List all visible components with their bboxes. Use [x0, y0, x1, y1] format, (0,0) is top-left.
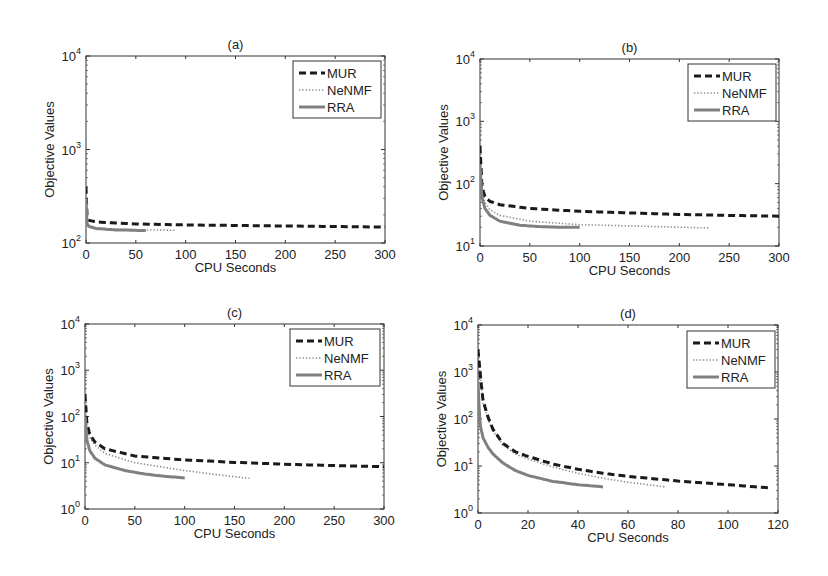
- x-tick-label: 50: [523, 250, 537, 265]
- y-tick-label: 103: [61, 360, 80, 378]
- x-tick-label: 80: [671, 517, 685, 532]
- x-tick-label: 100: [717, 517, 739, 532]
- legend-label-nenmf: NeNMF: [722, 86, 767, 101]
- legend-label-nenmf: NeNMF: [327, 83, 372, 98]
- series-line-rra: [86, 198, 146, 230]
- x-axis-label: CPU Seconds: [589, 263, 671, 278]
- legend: MURNeNMFRRA: [687, 331, 775, 388]
- y-tick-label: 101: [456, 236, 475, 254]
- series-line-mur: [86, 187, 385, 227]
- x-tick-label: 100: [175, 247, 197, 262]
- y-tick-label: 103: [456, 111, 475, 129]
- chart-panel-b: 050100150200250300101102103104(b)CPU Sec…: [436, 40, 790, 278]
- x-tick-label: 120: [767, 517, 789, 532]
- x-tick-label: 0: [81, 513, 88, 528]
- legend: MURNeNMFRRA: [293, 61, 381, 118]
- y-tick-label: 102: [61, 407, 80, 425]
- x-tick-label: 50: [129, 247, 143, 262]
- x-tick-label: 50: [128, 513, 142, 528]
- chart-panel-a: 050100150200250300102103104(a)CPU Second…: [42, 37, 396, 275]
- y-axis-label: Objective Values: [41, 368, 56, 465]
- x-tick-label: 250: [323, 513, 345, 528]
- legend-label-mur: MUR: [721, 336, 751, 351]
- y-axis-label: Objective Values: [436, 104, 451, 201]
- y-tick-label: 102: [454, 409, 473, 427]
- x-tick-label: 100: [569, 250, 591, 265]
- legend: MURNeNMFRRA: [290, 329, 380, 386]
- y-tick-label: 104: [62, 46, 81, 64]
- chart-title: (c): [227, 305, 242, 320]
- y-tick-label: 102: [456, 174, 475, 192]
- legend-label-mur: MUR: [324, 334, 354, 349]
- y-axis-label: Objective Values: [434, 370, 449, 467]
- series-line-nenmf: [478, 353, 666, 487]
- legend-label-rra: RRA: [324, 368, 352, 383]
- y-tick-label: 104: [456, 49, 475, 67]
- series-line-rra: [480, 165, 580, 227]
- x-tick-label: 300: [373, 513, 395, 528]
- x-tick-label: 20: [521, 517, 535, 532]
- legend-label-rra: RRA: [721, 370, 749, 385]
- y-axis-label: Objective Values: [42, 101, 57, 198]
- x-tick-label: 0: [476, 250, 483, 265]
- y-tick-label: 104: [454, 315, 473, 333]
- legend-label-rra: RRA: [722, 103, 750, 118]
- x-axis-label: CPU Seconds: [587, 530, 669, 545]
- legend: MURNeNMFRRA: [688, 64, 776, 121]
- series-line-nenmf: [480, 154, 709, 228]
- x-tick-label: 300: [768, 250, 790, 265]
- y-tick-label: 103: [454, 362, 473, 380]
- chart-title: (a): [228, 37, 244, 52]
- x-axis-label: CPU Seconds: [195, 260, 277, 275]
- x-tick-label: 40: [571, 517, 585, 532]
- legend-label-mur: MUR: [722, 69, 752, 84]
- x-tick-label: 0: [474, 517, 481, 532]
- legend-label-rra: RRA: [327, 100, 355, 115]
- y-tick-label: 104: [61, 314, 80, 332]
- legend-label-mur: MUR: [327, 66, 357, 81]
- x-tick-label: 200: [273, 513, 295, 528]
- series-line-mur: [85, 394, 384, 466]
- x-tick-label: 100: [174, 513, 196, 528]
- series-line-nenmf: [86, 198, 176, 230]
- chart-panel-d: 020406080100120100101102103104(d)CPU Sec…: [434, 306, 789, 545]
- figure: 050100150200250300102103104(a)CPU Second…: [0, 0, 828, 576]
- chart-title: (b): [622, 40, 638, 55]
- y-tick-label: 101: [454, 456, 473, 474]
- x-tick-label: 0: [82, 247, 89, 262]
- y-tick-label: 102: [62, 233, 81, 251]
- legend-label-nenmf: NeNMF: [324, 351, 369, 366]
- chart-panel-c: 050100150200250300100101102103104(c)CPU …: [41, 305, 395, 541]
- x-axis-label: CPU Seconds: [194, 526, 276, 541]
- x-tick-label: 300: [374, 247, 396, 262]
- y-tick-label: 101: [61, 453, 80, 471]
- chart-title: (d): [620, 306, 636, 321]
- legend-label-nenmf: NeNMF: [721, 353, 766, 368]
- x-tick-label: 250: [718, 250, 740, 265]
- y-tick-label: 100: [454, 503, 473, 521]
- x-tick-label: 250: [324, 247, 346, 262]
- x-tick-label: 200: [274, 247, 296, 262]
- x-tick-label: 200: [668, 250, 690, 265]
- y-tick-label: 103: [62, 140, 81, 158]
- series-line-mur: [480, 146, 779, 216]
- y-tick-label: 100: [61, 499, 80, 517]
